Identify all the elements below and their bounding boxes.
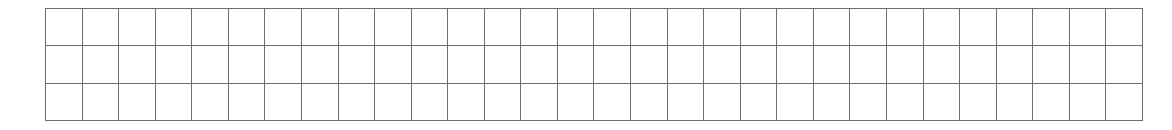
grid-cell[interactable] — [119, 46, 156, 83]
grid-cell[interactable] — [46, 84, 83, 121]
grid-cell[interactable] — [924, 46, 961, 83]
grid-cell[interactable] — [1033, 84, 1070, 121]
grid-cell[interactable] — [192, 9, 229, 46]
grid-cell[interactable] — [265, 46, 302, 83]
grid-cell[interactable] — [1033, 46, 1070, 83]
grid-cell[interactable] — [924, 84, 961, 121]
grid-cell[interactable] — [229, 84, 266, 121]
grid-cell[interactable] — [83, 84, 120, 121]
grid-cell[interactable] — [375, 46, 412, 83]
grid-cell[interactable] — [1106, 9, 1143, 46]
grid-cell[interactable] — [448, 9, 485, 46]
grid-cell[interactable] — [1106, 46, 1143, 83]
grid-cell[interactable] — [814, 84, 851, 121]
grid-cell[interactable] — [814, 46, 851, 83]
grid-cell[interactable] — [192, 84, 229, 121]
grid-cell[interactable] — [46, 9, 83, 46]
grid-cell[interactable] — [594, 84, 631, 121]
grid-cell[interactable] — [741, 46, 778, 83]
grid-cell[interactable] — [1070, 84, 1107, 121]
grid-cell[interactable] — [485, 84, 522, 121]
grid-cell[interactable] — [83, 46, 120, 83]
grid-cell[interactable] — [777, 9, 814, 46]
grid-cell[interactable] — [558, 46, 595, 83]
grid-cell[interactable] — [302, 9, 339, 46]
grid-cell[interactable] — [265, 84, 302, 121]
grid-cell[interactable] — [521, 9, 558, 46]
writing-grid — [45, 8, 1143, 121]
grid-cell[interactable] — [668, 46, 705, 83]
grid-cell[interactable] — [119, 84, 156, 121]
grid-cell[interactable] — [960, 46, 997, 83]
grid-cell[interactable] — [412, 46, 449, 83]
grid-cell[interactable] — [997, 9, 1034, 46]
grid-cell[interactable] — [1070, 9, 1107, 46]
grid-cell[interactable] — [192, 46, 229, 83]
grid-cell[interactable] — [887, 84, 924, 121]
grid-cell[interactable] — [448, 84, 485, 121]
grid-cell[interactable] — [631, 46, 668, 83]
grid-cell[interactable] — [448, 46, 485, 83]
grid-cell[interactable] — [339, 84, 376, 121]
grid-cell[interactable] — [594, 46, 631, 83]
grid-cell[interactable] — [412, 84, 449, 121]
grid-cell[interactable] — [741, 84, 778, 121]
grid-cell[interactable] — [558, 84, 595, 121]
grid-cell[interactable] — [668, 84, 705, 121]
grid-cell[interactable] — [924, 9, 961, 46]
grid-cell[interactable] — [558, 9, 595, 46]
grid-cell[interactable] — [850, 9, 887, 46]
grid-cell[interactable] — [375, 84, 412, 121]
grid-cell[interactable] — [83, 9, 120, 46]
grid-cell[interactable] — [265, 9, 302, 46]
grid-cell[interactable] — [631, 9, 668, 46]
grid-cell[interactable] — [485, 46, 522, 83]
grid-cell[interactable] — [521, 46, 558, 83]
grid-cell[interactable] — [412, 9, 449, 46]
grid-cell[interactable] — [704, 84, 741, 121]
grid-cell[interactable] — [960, 9, 997, 46]
grid-cell[interactable] — [156, 46, 193, 83]
grid-cell[interactable] — [339, 46, 376, 83]
grid-cell[interactable] — [887, 9, 924, 46]
grid-cell[interactable] — [485, 9, 522, 46]
grid-cell[interactable] — [668, 9, 705, 46]
grid-cell[interactable] — [46, 46, 83, 83]
grid-cell[interactable] — [704, 9, 741, 46]
grid-cell[interactable] — [229, 9, 266, 46]
grid-cell[interactable] — [814, 9, 851, 46]
grid-cell[interactable] — [229, 46, 266, 83]
grid-cell[interactable] — [777, 84, 814, 121]
grid-cell[interactable] — [302, 84, 339, 121]
grid-cell[interactable] — [1033, 9, 1070, 46]
grid-cell[interactable] — [521, 84, 558, 121]
grid-cell[interactable] — [1070, 46, 1107, 83]
grid-cell[interactable] — [777, 46, 814, 83]
grid-cell[interactable] — [156, 84, 193, 121]
grid-cell[interactable] — [156, 9, 193, 46]
grid-cell[interactable] — [850, 84, 887, 121]
grid-cell[interactable] — [887, 46, 924, 83]
grid-cell[interactable] — [741, 9, 778, 46]
grid-cell[interactable] — [339, 9, 376, 46]
grid-cell[interactable] — [997, 84, 1034, 121]
grid-cell[interactable] — [631, 84, 668, 121]
grid-cell[interactable] — [1106, 84, 1143, 121]
grid-cell[interactable] — [375, 9, 412, 46]
grid-cell[interactable] — [704, 46, 741, 83]
grid-cell[interactable] — [960, 84, 997, 121]
grid-cell[interactable] — [119, 9, 156, 46]
grid-cell[interactable] — [302, 46, 339, 83]
grid-cell[interactable] — [594, 9, 631, 46]
grid-cell[interactable] — [850, 46, 887, 83]
grid-cell[interactable] — [997, 46, 1034, 83]
